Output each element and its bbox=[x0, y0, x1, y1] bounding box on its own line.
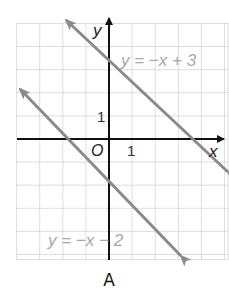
x-tick-label-1: 1 bbox=[127, 142, 135, 159]
figure-caption: A bbox=[0, 270, 218, 290]
y-tick-label-1: 1 bbox=[97, 108, 105, 125]
equation-label-line-2: y = −x − 2 bbox=[47, 231, 124, 250]
y-axis-label: y bbox=[92, 21, 103, 40]
equation-label-line-1: y = −x + 3 bbox=[120, 51, 197, 70]
x-axis-label: x bbox=[208, 142, 218, 161]
origin-label: O bbox=[91, 142, 103, 159]
coordinate-plane: y x O 1 1 y = −x + 3 y = −x − 2 bbox=[0, 0, 229, 298]
